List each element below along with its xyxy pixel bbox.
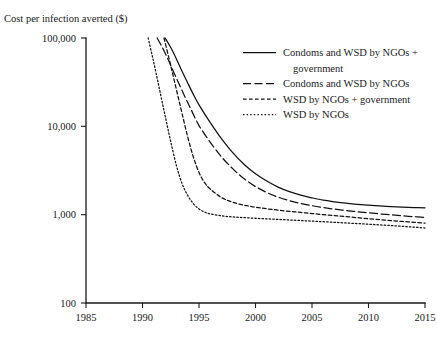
x-tick-label: 2000 [245, 312, 266, 323]
y-tick-label: 100 [60, 298, 76, 309]
y-tick-label: 1,000 [52, 209, 76, 220]
y-tick-label: 10,000 [47, 121, 76, 132]
y-axis-ticks: 100,00010,0001,000100 [42, 33, 86, 309]
x-axis-ticks: 1985199019952000200520102015 [76, 303, 436, 323]
y-tick-label: 100,000 [42, 33, 76, 44]
legend-label-2: Condoms and WSD by NGOs [283, 78, 409, 89]
chart-legend: Condoms and WSD by NGOs +governmentCondo… [243, 47, 418, 120]
x-tick-label: 1985 [76, 312, 97, 323]
legend-label-3: WSD by NGOs + government [283, 94, 410, 105]
x-tick-label: 2015 [415, 312, 436, 323]
series-lines [148, 38, 425, 228]
chart-canvas: Cost per infection averted ($) 100,00010… [0, 0, 437, 341]
x-tick-label: 2010 [358, 312, 379, 323]
y-axis-label: Cost per infection averted ($) [4, 13, 128, 25]
cost-per-infection-averted-chart: Cost per infection averted ($) 100,00010… [0, 0, 437, 341]
legend-label-4: WSD by NGOs [283, 109, 349, 120]
x-tick-label: 2005 [302, 312, 323, 323]
series-line-2 [157, 38, 425, 217]
x-tick-label: 1995 [189, 312, 210, 323]
x-tick-label: 1990 [132, 312, 153, 323]
legend-label-1-continued: government [293, 63, 343, 74]
legend-label-1: Condoms and WSD by NGOs + [283, 47, 418, 58]
